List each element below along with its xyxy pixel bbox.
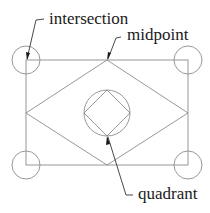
outer-diamond bbox=[26, 60, 188, 165]
midpoint-leader-line bbox=[108, 37, 121, 59]
snap-diagram: intersection midpoint quadrant bbox=[0, 0, 210, 213]
midpoint-callout: midpoint bbox=[107, 25, 189, 60]
intersection-callout: intersection bbox=[26, 9, 129, 60]
intersection-label: intersection bbox=[49, 9, 129, 28]
quadrant-callout: quadrant bbox=[106, 136, 198, 203]
midpoint-arrowhead-icon bbox=[107, 52, 111, 60]
outer-rectangle bbox=[26, 60, 188, 165]
quadrant-leader-line bbox=[108, 137, 133, 195]
midpoint-label: midpoint bbox=[127, 25, 189, 44]
quadrant-label: quadrant bbox=[138, 184, 198, 203]
center-circle bbox=[84, 90, 130, 136]
